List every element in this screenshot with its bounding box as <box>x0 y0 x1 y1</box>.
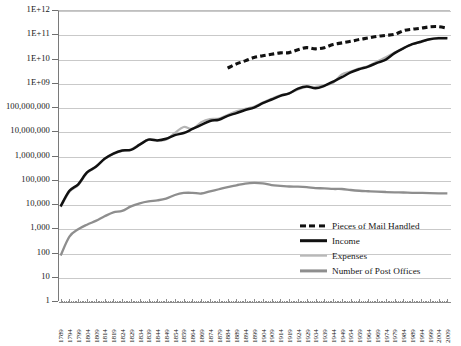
x-axis-tick-label: 1934 <box>312 303 321 343</box>
x-axis-tick-label: 1874 <box>207 303 216 343</box>
x-axis-tick-label: 1924 <box>295 303 304 343</box>
x-axis-tick-label: 1889 <box>233 303 242 343</box>
y-axis-tick-label: 1E+12 <box>0 5 50 14</box>
x-axis-tick-label: 1864 <box>189 303 198 343</box>
y-axis-tick-label: 1E+10 <box>0 54 50 63</box>
x-axis-tick-label: 1819 <box>110 303 119 343</box>
y-axis-tick-mark <box>52 301 58 302</box>
y-axis-tick-label: 1,000,000 <box>0 151 50 160</box>
x-axis-tick-label: 1959 <box>356 303 365 343</box>
legend-label: Income <box>332 236 360 246</box>
log-scale-line-chart: 1E+121E+111E+101E+09100,000,00010,000,00… <box>0 0 461 346</box>
x-axis-tick-label: 1919 <box>286 303 295 343</box>
x-axis-tick-label: 1799 <box>75 303 84 343</box>
x-axis-tick-label: 1849 <box>163 303 172 343</box>
legend-item-expenses[interactable]: Expenses <box>300 248 452 263</box>
chart-legend: Pieces of Mail Handled Income Expenses N… <box>300 218 452 278</box>
x-axis-tick-label: 1899 <box>251 303 260 343</box>
x-axis-tick-label: 1869 <box>198 303 207 343</box>
series-line-income <box>61 38 448 206</box>
x-axis-tick-label: 1939 <box>321 303 330 343</box>
x-axis-tick-label: 1824 <box>119 303 128 343</box>
y-axis-tick-label: 10,000,000 <box>0 126 50 135</box>
x-axis: 1789179417991804180918141819182418291834… <box>58 303 450 346</box>
legend-item-pieces-of-mail-handled[interactable]: Pieces of Mail Handled <box>300 218 452 233</box>
legend-swatch-solid-line-icon <box>300 250 327 261</box>
legend-swatch-dashed-line-icon <box>300 220 327 231</box>
x-axis-tick-label: 1994 <box>418 303 427 343</box>
legend-swatch-solid-line-icon <box>300 235 327 246</box>
x-axis-tick-label: 1829 <box>128 303 137 343</box>
y-axis-tick-label: 1E+11 <box>0 29 50 38</box>
y-axis-tick-label: 1E+09 <box>0 78 50 87</box>
legend-item-income[interactable]: Income <box>300 233 452 248</box>
y-axis-tick-label: 100,000 <box>0 175 50 184</box>
x-axis-tick-label: 1839 <box>145 303 154 343</box>
y-axis-tick-label: 10,000 <box>0 199 50 208</box>
legend-swatch-solid-line-icon <box>300 265 327 276</box>
x-axis-tick-label: 1984 <box>400 303 409 343</box>
x-axis-tick-label: 1969 <box>374 303 383 343</box>
x-axis-tick-label: 2009 <box>444 303 453 343</box>
legend-label: Expenses <box>332 251 367 261</box>
y-axis-tick-label: 100 <box>0 248 50 257</box>
series-line-pieces-of-mail-handled <box>228 27 448 69</box>
x-axis-tick-label: 1914 <box>277 303 286 343</box>
x-axis-tick-label: 1804 <box>84 303 93 343</box>
x-axis-tick-label: 1944 <box>330 303 339 343</box>
legend-item-number-of-post-offices[interactable]: Number of Post Offices <box>300 263 452 278</box>
y-axis-tick-label: 1,000 <box>0 223 50 232</box>
x-axis-tick-label: 1894 <box>242 303 251 343</box>
x-axis-tick-mark <box>447 299 448 303</box>
x-axis-tick-label: 1989 <box>409 303 418 343</box>
x-axis-tick-label: 1844 <box>154 303 163 343</box>
legend-label: Number of Post Offices <box>332 266 420 276</box>
y-axis-tick-label: 10 <box>0 272 50 281</box>
x-axis-tick-label: 2004 <box>435 303 444 343</box>
x-axis-tick-label: 1794 <box>66 303 75 343</box>
y-axis-tick-label: 100,000,000 <box>0 102 50 111</box>
legend-label: Pieces of Mail Handled <box>332 221 420 231</box>
x-axis-tick-label: 1964 <box>365 303 374 343</box>
y-axis-tick-label: 1 <box>0 296 50 305</box>
